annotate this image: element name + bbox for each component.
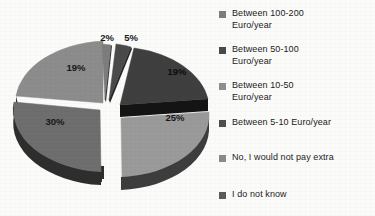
legend-label: I do not know bbox=[232, 189, 287, 201]
slice-group-no-pay-extra bbox=[13, 102, 101, 185]
legend-swatch-icon bbox=[219, 120, 226, 127]
pie-label-25-percent: 25% bbox=[165, 112, 185, 123]
legend-swatch-icon bbox=[219, 11, 226, 18]
legend-label: Between 100-200 Euro/year bbox=[232, 8, 304, 31]
legend-item-between-10-50[interactable]: Between 10-50 Euro/year bbox=[219, 80, 375, 103]
legend-label: No, I would not pay extra bbox=[232, 152, 334, 164]
legend-label: Between 5-10 Euro/year bbox=[232, 117, 331, 129]
slice-group-between-10-50 bbox=[120, 48, 208, 117]
legend-label: Between 10-50 Euro/year bbox=[232, 80, 294, 103]
legend-item-between-50-100[interactable]: Between 50-100 Euro/year bbox=[219, 44, 375, 67]
pie-chart-svg: 2% 5% 19% 25% 30% 19% bbox=[0, 0, 216, 216]
legend-swatch-icon bbox=[219, 83, 226, 90]
pie-chart: 2% 5% 19% 25% 30% 19% bbox=[0, 0, 216, 216]
slice-top-no-pay-extra bbox=[13, 102, 101, 172]
pie-label-2-percent: 2% bbox=[100, 32, 114, 43]
legend-item-between-100-200[interactable]: Between 100-200 Euro/year bbox=[219, 8, 375, 31]
pie-label-30-percent: 30% bbox=[45, 116, 65, 127]
pie-label-5-percent: 5% bbox=[124, 32, 138, 43]
chart-legend: Between 100-200 Euro/year Between 50-100… bbox=[219, 0, 375, 216]
pie-label-19-percent-left: 19% bbox=[66, 62, 86, 73]
slice-top-between-10-50 bbox=[120, 48, 208, 105]
legend-swatch-icon bbox=[219, 47, 226, 54]
pie-label-19-percent-right: 19% bbox=[167, 66, 187, 77]
slice-group-between-5-10 bbox=[121, 112, 209, 190]
chart-page: 2% 5% 19% 25% 30% 19% Between 100-200 Eu… bbox=[0, 0, 375, 216]
legend-label: Between 50-100 Euro/year bbox=[232, 44, 299, 67]
legend-swatch-icon bbox=[219, 155, 226, 162]
legend-item-between-5-10[interactable]: Between 5-10 Euro/year bbox=[219, 117, 375, 129]
slice-top-i-do-not-know bbox=[16, 41, 103, 103]
legend-swatch-icon bbox=[219, 192, 226, 199]
legend-item-no-pay-extra[interactable]: No, I would not pay extra bbox=[219, 152, 375, 164]
legend-item-i-do-not-know[interactable]: I do not know bbox=[219, 189, 375, 201]
